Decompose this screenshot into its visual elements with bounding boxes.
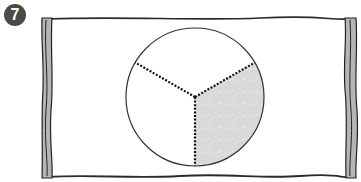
left-scroll-rod (42, 18, 52, 178)
fraction-illustration (0, 0, 361, 182)
right-scroll-rod (344, 18, 357, 178)
